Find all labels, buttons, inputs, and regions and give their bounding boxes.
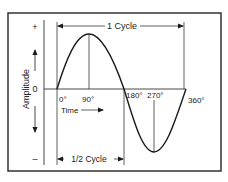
y-mark-minus: – <box>32 154 37 164</box>
sine-wave-diagram: 1 Cycle 1/2 Cycle + 0 – Amplitude 0° 90°… <box>0 0 228 182</box>
amplitude-label: Amplitude <box>21 69 31 109</box>
half-cycle-label: 1/2 Cycle <box>71 154 107 164</box>
diagram-frame <box>8 13 221 171</box>
angle-label-360: 360° <box>188 96 205 105</box>
sine-curve <box>57 34 186 152</box>
angle-label-180: 180° <box>126 91 143 100</box>
angle-label-0: 0° <box>59 95 67 104</box>
angle-label-90: 90° <box>82 95 94 104</box>
y-mark-zero: 0 <box>32 84 37 94</box>
y-mark-plus: + <box>32 22 37 32</box>
full-cycle-label: 1 Cycle <box>107 21 137 31</box>
time-label: Time <box>61 106 79 115</box>
angle-label-270: 270° <box>147 91 164 100</box>
